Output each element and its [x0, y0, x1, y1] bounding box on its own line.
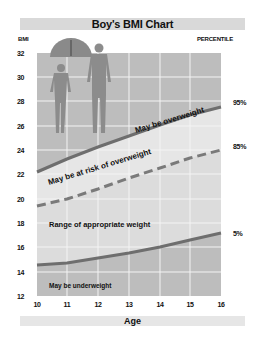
y-tick: 18 [17, 220, 31, 227]
plot-area: May be overweight May be at risk of over… [0, 0, 260, 345]
y-tick: 32 [17, 50, 31, 57]
y-tick: 26 [17, 123, 31, 130]
y-tick: 14 [17, 269, 31, 276]
x-tick: 14 [156, 301, 163, 308]
legend-95: 95% [233, 99, 246, 106]
y-tick: 30 [17, 74, 31, 81]
y-tick: 12 [17, 293, 31, 300]
annotation-appropriate: Range of appropriate weight [49, 220, 151, 229]
x-tick: 11 [64, 301, 71, 308]
y-tick: 16 [17, 244, 31, 251]
y-tick: 24 [17, 147, 31, 154]
x-tick: 10 [33, 301, 40, 308]
y-tick: 28 [17, 98, 31, 105]
legend-5: 5% [233, 230, 243, 237]
annotation-underweight: May be underweight [49, 282, 112, 290]
y-tick: 20 [17, 196, 31, 203]
y-tick: 22 [17, 171, 31, 178]
x-axis-label: Age [20, 316, 245, 326]
x-tick: 15 [186, 301, 193, 308]
x-tick: 16 [217, 301, 224, 308]
scale-icon [50, 38, 92, 57]
legend-85: 85% [233, 143, 246, 150]
x-tick: 13 [125, 301, 132, 308]
x-tick: 12 [94, 301, 101, 308]
